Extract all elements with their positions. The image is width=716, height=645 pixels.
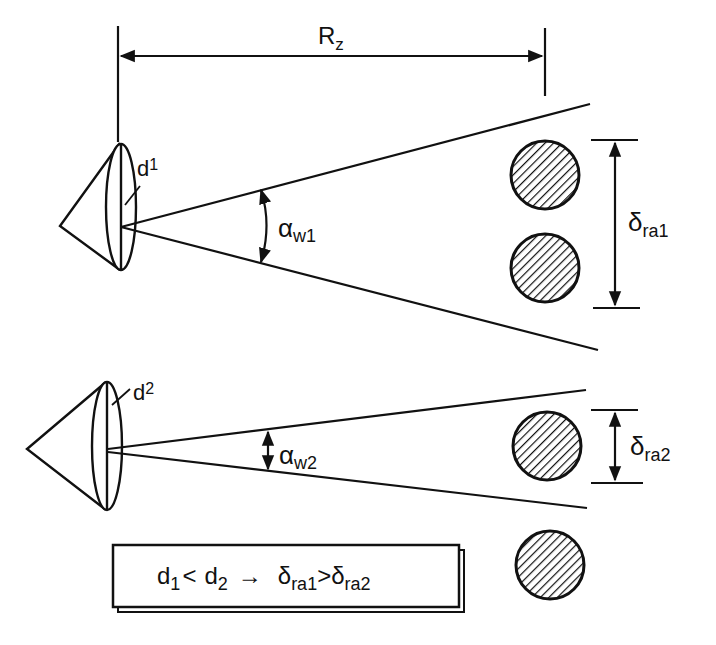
aperture-label-d1: d1 (137, 156, 158, 181)
resolution-label-ra1: δra1 (628, 207, 669, 241)
antenna-top (60, 143, 140, 270)
antenna-resolution-diagram: Rz d1 αw1 δra1 d2 (0, 0, 716, 645)
target-3 (513, 412, 581, 480)
target-1 (511, 141, 579, 209)
target-4 (516, 531, 584, 599)
resolution-label-ra2: δra2 (630, 431, 671, 465)
beamwidth-label-w1: αw1 (278, 213, 316, 246)
antenna-bottom (27, 382, 130, 510)
beam-top (121, 104, 598, 350)
range-label: Rz (318, 22, 344, 54)
beamwidth-label-w2: αw2 (279, 440, 317, 473)
target-2 (511, 234, 579, 302)
aperture-label-d2: d2 (133, 380, 154, 405)
